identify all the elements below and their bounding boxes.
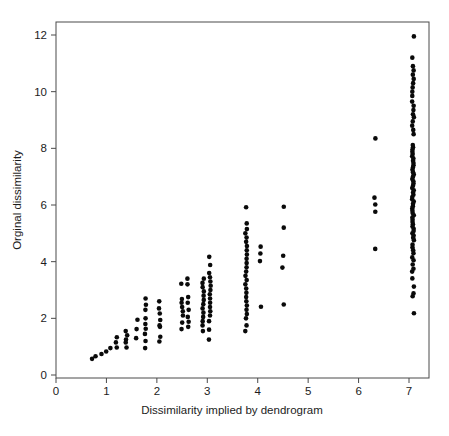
data-point — [185, 300, 190, 305]
data-point — [244, 269, 249, 274]
data-point — [201, 298, 206, 303]
data-point — [93, 354, 98, 359]
data-point — [244, 248, 249, 253]
data-point — [157, 339, 162, 344]
data-point — [243, 282, 248, 287]
x-axis-title: Dissimilarity implied by dendrogram — [141, 404, 323, 416]
data-point — [243, 231, 248, 236]
data-point — [157, 323, 162, 328]
data-point — [208, 279, 213, 284]
data-point — [201, 310, 206, 315]
plot-box — [56, 22, 429, 378]
data-point — [185, 276, 190, 281]
data-point — [244, 308, 249, 313]
data-point — [201, 315, 206, 320]
data-point — [208, 283, 213, 288]
data-point — [158, 318, 163, 323]
data-point — [200, 281, 205, 286]
data-point — [208, 292, 213, 297]
x-tick-label: 1 — [103, 385, 109, 397]
data-point — [208, 300, 213, 305]
data-point — [207, 319, 212, 324]
data-point — [208, 263, 213, 268]
data-point — [179, 327, 184, 332]
scatter-plot-figure: 01234567 024681012 Dissimilarity implied… — [0, 0, 449, 436]
data-point — [411, 104, 416, 109]
data-point — [411, 108, 416, 113]
data-point — [202, 289, 207, 294]
data-point — [143, 308, 148, 313]
data-point — [244, 278, 249, 283]
data-point — [410, 255, 415, 260]
data-point — [373, 202, 378, 207]
scatter-plot-canvas: 01234567 024681012 Dissimilarity implied… — [0, 0, 449, 436]
data-point — [281, 253, 286, 258]
y-tick-label: 8 — [41, 142, 47, 154]
data-point — [411, 143, 416, 148]
data-point — [158, 334, 163, 339]
data-point — [258, 251, 263, 256]
data-point — [200, 306, 205, 311]
data-point — [411, 132, 416, 137]
data-point — [258, 259, 263, 264]
data-point — [281, 204, 286, 209]
data-point — [411, 112, 416, 117]
data-point — [208, 309, 213, 314]
data-point — [143, 322, 148, 327]
data-point — [144, 302, 149, 307]
data-point — [104, 349, 109, 354]
data-point — [181, 309, 186, 314]
data-point — [373, 210, 378, 215]
data-point — [372, 195, 377, 200]
data-point — [114, 340, 119, 345]
data-point — [244, 205, 249, 210]
data-point — [180, 305, 185, 310]
data-point — [258, 244, 263, 249]
data-point — [410, 89, 415, 94]
data-point — [244, 261, 249, 266]
data-point — [157, 299, 162, 304]
data-point — [410, 94, 415, 99]
x-tick-label: 4 — [255, 385, 262, 397]
data-point — [157, 306, 162, 311]
data-point — [412, 34, 417, 39]
data-point — [202, 276, 207, 281]
y-tick-label: 12 — [34, 29, 47, 41]
data-point — [157, 311, 162, 316]
data-point — [134, 336, 139, 341]
data-point — [200, 319, 205, 324]
data-point — [411, 266, 416, 271]
data-point — [412, 284, 417, 289]
data-point — [245, 312, 250, 317]
data-point — [207, 327, 212, 332]
data-point — [244, 235, 249, 240]
data-point — [143, 346, 148, 351]
data-point — [243, 329, 248, 334]
data-point — [412, 311, 417, 316]
x-tick-label: 0 — [53, 385, 59, 397]
data-point — [411, 291, 416, 296]
x-tick-label: 6 — [355, 385, 361, 397]
data-point — [143, 316, 148, 321]
data-point — [180, 320, 185, 325]
data-point — [186, 319, 191, 324]
data-point — [411, 72, 416, 77]
data-point — [244, 221, 249, 226]
y-tick-label: 6 — [41, 199, 47, 211]
y-axis: 024681012 — [34, 29, 56, 381]
data-point — [208, 275, 213, 280]
data-point — [245, 303, 250, 308]
data-point — [143, 339, 148, 344]
data-point — [135, 317, 140, 322]
data-point — [124, 345, 129, 350]
data-point — [411, 77, 416, 82]
data-point — [200, 285, 205, 290]
data-point — [99, 352, 104, 357]
data-point — [185, 315, 190, 320]
x-tick-label: 5 — [305, 385, 311, 397]
y-axis-title: Orginal dissimilarity — [11, 150, 23, 250]
x-axis: 01234567 — [53, 378, 412, 397]
data-point — [245, 244, 250, 249]
data-point — [410, 123, 415, 128]
data-point — [200, 323, 205, 328]
